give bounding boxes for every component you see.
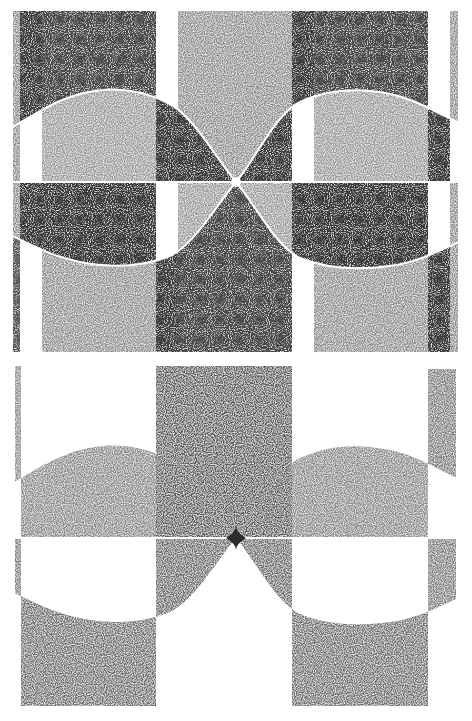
figure	[0, 0, 472, 721]
center-crossing	[231, 177, 241, 187]
figure-caption	[125, 716, 361, 721]
top-panel	[0, 0, 472, 366]
bottom-panel	[0, 366, 472, 721]
